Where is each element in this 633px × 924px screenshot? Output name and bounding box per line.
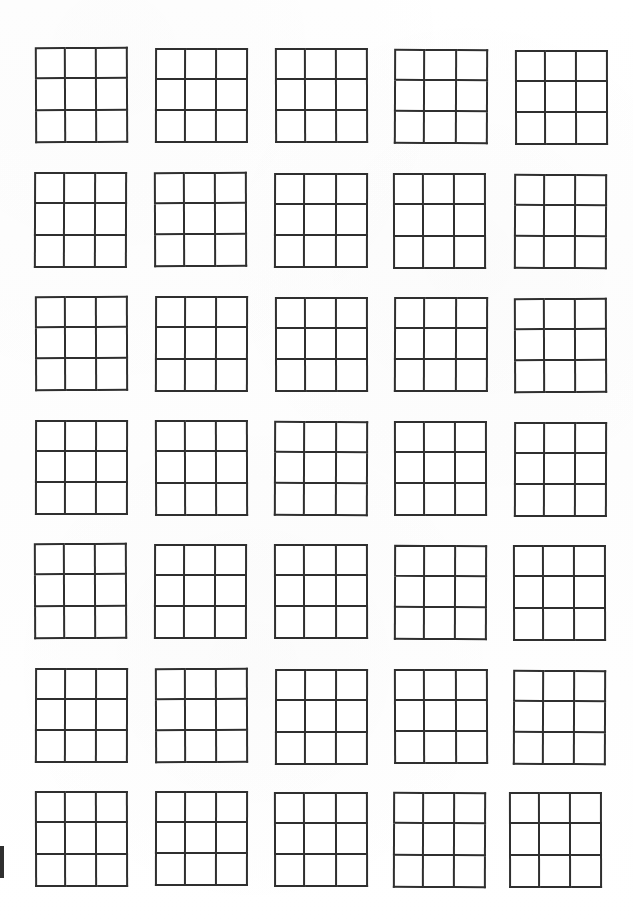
- grid-cell[interactable]: [394, 421, 425, 453]
- grid-cell[interactable]: [66, 359, 97, 391]
- grid-cell[interactable]: [336, 484, 367, 516]
- grid-cell[interactable]: [576, 237, 607, 269]
- grid-cell[interactable]: [35, 700, 66, 732]
- grid-cell[interactable]: [577, 113, 608, 145]
- grid-cell[interactable]: [97, 359, 128, 391]
- grid-cell[interactable]: [455, 856, 486, 888]
- grid-cell[interactable]: [186, 791, 217, 823]
- grid-cell[interactable]: [216, 203, 247, 235]
- grid-cell[interactable]: [576, 298, 607, 330]
- grid-cell[interactable]: [97, 791, 128, 823]
- grid-cell[interactable]: [337, 576, 368, 608]
- grid-cell[interactable]: [217, 700, 248, 732]
- grid-cell[interactable]: [66, 111, 97, 143]
- grid-cell[interactable]: [576, 174, 607, 206]
- grid-cell[interactable]: [274, 421, 305, 453]
- grid-cell[interactable]: [337, 824, 368, 856]
- grid-cell[interactable]: [154, 576, 185, 608]
- grid-cell[interactable]: [337, 733, 368, 765]
- grid-cell[interactable]: [154, 204, 185, 236]
- grid-cell[interactable]: [424, 824, 455, 856]
- blank-3x3-grid[interactable]: [394, 49, 488, 144]
- grid-cell[interactable]: [337, 173, 368, 205]
- grid-cell[interactable]: [544, 545, 575, 577]
- grid-cell[interactable]: [540, 824, 571, 856]
- grid-cell[interactable]: [305, 544, 336, 576]
- grid-cell[interactable]: [35, 359, 66, 391]
- blank-3x3-grid[interactable]: [274, 173, 368, 268]
- grid-cell[interactable]: [34, 607, 65, 639]
- grid-cell[interactable]: [96, 543, 127, 575]
- blank-3x3-grid[interactable]: [394, 669, 488, 764]
- grid-cell[interactable]: [577, 50, 608, 82]
- grid-cell[interactable]: [337, 48, 368, 80]
- grid-cell[interactable]: [544, 609, 575, 641]
- grid-cell[interactable]: [185, 576, 216, 608]
- grid-cell[interactable]: [35, 296, 66, 328]
- grid-cell[interactable]: [97, 296, 128, 328]
- grid-cell[interactable]: [337, 421, 368, 453]
- grid-cell[interactable]: [97, 47, 128, 79]
- grid-cell[interactable]: [65, 575, 96, 607]
- blank-3x3-grid[interactable]: [35, 47, 128, 143]
- grid-cell[interactable]: [97, 731, 128, 763]
- grid-cell[interactable]: [186, 111, 217, 143]
- grid-cell[interactable]: [35, 668, 66, 700]
- grid-cell[interactable]: [97, 668, 128, 700]
- grid-cell[interactable]: [305, 576, 336, 608]
- grid-cell[interactable]: [337, 236, 368, 268]
- grid-cell[interactable]: [35, 79, 66, 111]
- grid-cell[interactable]: [275, 669, 306, 701]
- grid-cell[interactable]: [457, 297, 488, 329]
- grid-cell[interactable]: [154, 607, 185, 639]
- grid-cell[interactable]: [97, 483, 128, 515]
- grid-cell[interactable]: [217, 80, 248, 112]
- grid-cell[interactable]: [306, 111, 337, 143]
- grid-cell[interactable]: [394, 545, 425, 577]
- grid-cell[interactable]: [306, 360, 337, 392]
- blank-3x3-grid[interactable]: [275, 669, 368, 765]
- grid-cell[interactable]: [186, 452, 217, 484]
- grid-cell[interactable]: [305, 236, 336, 268]
- grid-cell[interactable]: [337, 701, 368, 733]
- grid-cell[interactable]: [513, 733, 544, 765]
- grid-cell[interactable]: [544, 733, 575, 765]
- grid-cell[interactable]: [217, 484, 248, 516]
- grid-cell[interactable]: [394, 669, 425, 701]
- grid-cell[interactable]: [456, 421, 487, 453]
- blank-3x3-grid[interactable]: [154, 544, 247, 639]
- blank-3x3-grid[interactable]: [274, 544, 368, 639]
- grid-cell[interactable]: [545, 298, 576, 330]
- grid-cell[interactable]: [305, 205, 336, 237]
- grid-cell[interactable]: [35, 452, 66, 484]
- grid-cell[interactable]: [425, 701, 456, 733]
- grid-cell[interactable]: [275, 329, 306, 361]
- blank-3x3-grid[interactable]: [275, 48, 368, 143]
- grid-cell[interactable]: [394, 732, 425, 764]
- grid-cell[interactable]: [571, 824, 602, 856]
- grid-cell[interactable]: [306, 48, 337, 80]
- grid-cell[interactable]: [545, 485, 576, 517]
- grid-cell[interactable]: [275, 733, 306, 765]
- grid-cell[interactable]: [544, 577, 575, 609]
- grid-cell[interactable]: [185, 607, 216, 639]
- grid-cell[interactable]: [155, 823, 186, 855]
- grid-cell[interactable]: [337, 111, 368, 143]
- grid-cell[interactable]: [571, 856, 602, 888]
- blank-3x3-grid[interactable]: [34, 543, 127, 639]
- grid-cell[interactable]: [545, 174, 576, 206]
- grid-cell[interactable]: [66, 420, 97, 452]
- grid-cell[interactable]: [513, 609, 544, 641]
- grid-cell[interactable]: [65, 172, 96, 204]
- grid-cell[interactable]: [66, 328, 97, 360]
- grid-cell[interactable]: [275, 48, 306, 80]
- grid-cell[interactable]: [425, 329, 456, 361]
- grid-cell[interactable]: [424, 173, 455, 205]
- grid-cell[interactable]: [575, 702, 606, 734]
- grid-cell[interactable]: [540, 792, 571, 824]
- grid-cell[interactable]: [186, 48, 217, 80]
- grid-cell[interactable]: [305, 792, 336, 824]
- grid-cell[interactable]: [97, 420, 128, 452]
- grid-cell[interactable]: [393, 205, 424, 237]
- grid-cell[interactable]: [186, 484, 217, 516]
